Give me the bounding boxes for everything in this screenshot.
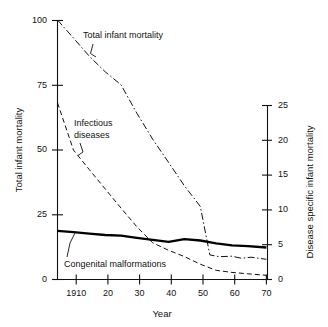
x-tick-label: 60 [230,288,240,298]
left-tick-label: 50 [37,144,47,154]
series-congenital-malformations [58,231,267,248]
x-tick-label: 70 [261,288,271,298]
left-tick-label: 0 [42,274,47,284]
x-axis-title: Year [152,308,171,319]
x-tick-label: 30 [135,288,145,298]
leader-line-congenital-malformations [67,233,75,257]
y-axis-title: Total infant mortality [13,108,24,193]
y2-axis-title: Disease specific infant mortality [304,125,315,258]
leader-line-total-infant-mortality [91,44,97,57]
right-tick-label: 20 [278,135,288,145]
right-tick-label: 10 [278,204,288,214]
series-infectious-diseases [58,103,267,275]
right-tick-label: 0 [278,274,283,284]
x-tick-label: 1910 [66,288,86,298]
leader-line-infectious-diseases [78,143,83,156]
right-tick-label: 25 [278,100,288,110]
annotation-total-infant-mortality: Total infant mortality [83,30,164,40]
x-tick-label: 20 [103,288,113,298]
right-tick-labels: 25 20 15 10 5 0 [278,100,288,284]
annotation-infectious-diseases-line1: Infectious [74,118,113,128]
right-tick-label: 5 [278,239,283,249]
x-tick-label: 40 [166,288,176,298]
annotation-infectious-diseases-line2: diseases [74,130,110,140]
x-tick-labels: 1910 20 30 40 50 60 70 [66,288,271,298]
left-tick-label: 25 [37,209,47,219]
left-tick-label: 100 [32,15,47,25]
annotation-congenital-malformations: Congenital malformations [64,259,167,269]
left-tick-label: 75 [37,80,47,90]
data-series-group [58,20,267,275]
right-tick-label: 15 [278,169,288,179]
x-tick-label: 50 [198,288,208,298]
chart-svg: 100 75 50 25 0 25 20 15 10 5 0 1910 20 3… [0,0,328,327]
chart-figure: 100 75 50 25 0 25 20 15 10 5 0 1910 20 3… [0,0,328,327]
left-tick-labels: 100 75 50 25 0 [32,15,47,284]
